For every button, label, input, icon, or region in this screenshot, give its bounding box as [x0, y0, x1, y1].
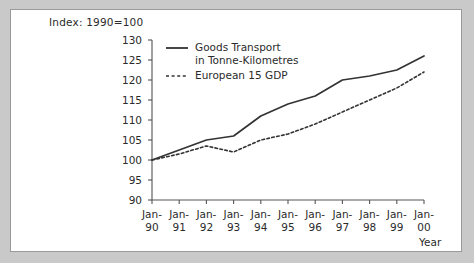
- x-axis-tick-label-line: Jan-: [274, 208, 302, 221]
- x-axis-tick-label-line: Jan-: [383, 208, 411, 221]
- x-axis-tick-label-line: Jan-: [301, 208, 329, 221]
- x-axis-tick-label: Jan-93: [220, 208, 248, 233]
- y-axis-tick-label: 110: [116, 114, 142, 126]
- x-axis-tick-label-line: Jan-: [328, 208, 356, 221]
- x-axis-tick-label-line: Jan-: [247, 208, 275, 221]
- x-axis-tick-label-line: 93: [220, 221, 248, 234]
- y-axis-tick-label: 105: [116, 134, 142, 146]
- x-axis-tick-label-line: 90: [138, 221, 166, 234]
- legend-label-line: in Tonne-Kilometres: [195, 54, 299, 67]
- series-line-2: [152, 72, 424, 160]
- x-axis-tick-label-line: Jan-: [410, 208, 438, 221]
- x-axis-tick-label: Jan-00: [410, 208, 438, 233]
- y-axis-tick-label: 125: [116, 54, 142, 66]
- x-axis-tick-label: Jan-98: [356, 208, 384, 233]
- legend-entry-1: Goods Transportin Tonne-Kilometres: [195, 41, 299, 66]
- x-axis-tick-label: Jan-92: [192, 208, 220, 233]
- x-axis-tick-label-line: 97: [328, 221, 356, 234]
- y-axis-tick-label: 120: [116, 74, 142, 86]
- x-axis-tick-label-line: 94: [247, 221, 275, 234]
- x-axis-title: Year: [419, 236, 441, 248]
- series-line-1: [152, 56, 424, 160]
- x-axis-tick-label: Jan-91: [165, 208, 193, 233]
- x-axis-tick-label: Jan-96: [301, 208, 329, 233]
- x-axis-tick-label-line: 95: [274, 221, 302, 234]
- x-axis-tick-label: Jan-90: [138, 208, 166, 233]
- legend-label-line: Goods Transport: [195, 41, 299, 54]
- x-axis-tick-label-line: 92: [192, 221, 220, 234]
- x-axis-tick-label-line: Jan-: [192, 208, 220, 221]
- y-axis-tick-label: 115: [116, 94, 142, 106]
- y-axis-tick-label: 90: [116, 194, 142, 206]
- x-axis-tick-label: Jan-99: [383, 208, 411, 233]
- x-axis-tick-label-line: 96: [301, 221, 329, 234]
- chart-plot-area: 9095100105110115120125130Jan-90Jan-91Jan…: [0, 0, 474, 263]
- x-axis-tick-label-line: Jan-: [138, 208, 166, 221]
- legend-entry-2: European 15 GDP: [195, 69, 288, 82]
- y-axis-tick-label: 130: [116, 34, 142, 46]
- y-axis-tick-label: 100: [116, 154, 142, 166]
- legend-label-line: European 15 GDP: [195, 69, 288, 82]
- x-axis-tick-label-line: 99: [383, 221, 411, 234]
- x-axis-tick-label-line: 00: [410, 221, 438, 234]
- x-axis-tick-label-line: Jan-: [220, 208, 248, 221]
- x-axis-tick-label-line: 91: [165, 221, 193, 234]
- y-axis-tick-label: 95: [116, 174, 142, 186]
- x-axis-tick-label: Jan-97: [328, 208, 356, 233]
- x-axis-tick-label: Jan-95: [274, 208, 302, 233]
- x-axis-tick-label: Jan-94: [247, 208, 275, 233]
- x-axis-tick-label-line: Jan-: [356, 208, 384, 221]
- x-axis-tick-label-line: Jan-: [165, 208, 193, 221]
- x-axis-tick-label-line: 98: [356, 221, 384, 234]
